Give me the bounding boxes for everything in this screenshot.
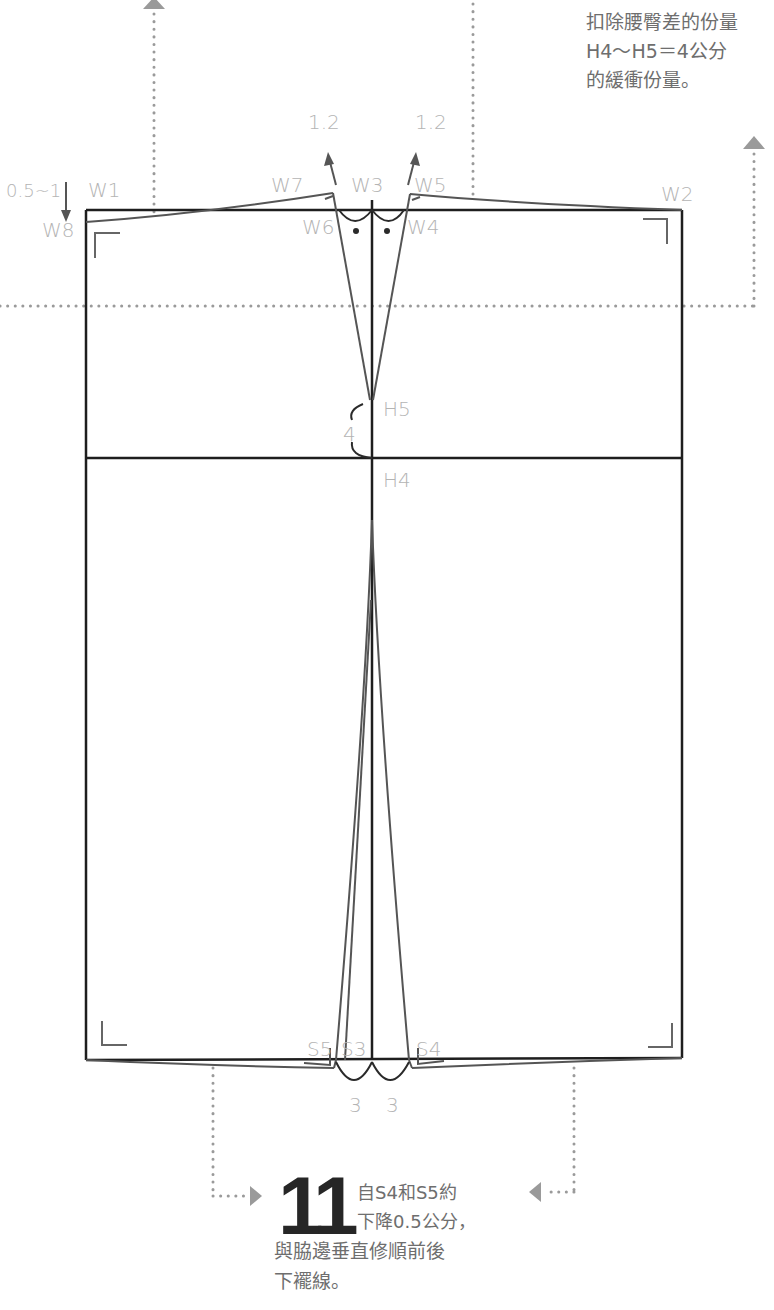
label-hem-right: 3 — [386, 1093, 399, 1117]
label-w6: W6 — [302, 215, 335, 239]
label-w7: W7 — [271, 173, 304, 197]
label-dart-left: 1.2 — [308, 110, 340, 134]
step-text-top: 自S4和S5約下降0.5公分， — [357, 1178, 476, 1236]
label-w5: W5 — [414, 173, 447, 197]
label-s3: S3 — [341, 1037, 366, 1061]
label-h5: H5 — [383, 397, 411, 421]
top-note-line: 的緩衝份量。 — [586, 66, 738, 95]
arrow-left-icon — [529, 1182, 541, 1202]
label-w3: W3 — [351, 173, 384, 197]
step-text-bottom: 與脇邊垂直修順前後下襬線。 — [274, 1236, 445, 1296]
dart-dot-icon — [353, 228, 359, 234]
skirt-pattern-diagram: W1 W2 W3 W4 W5 W6 W7 W8 H5 H4 4 1.2 1.2 … — [0, 0, 774, 1310]
label-hip-gap: 4 — [343, 422, 356, 446]
label-drop-left: 0.5~1 — [6, 180, 61, 201]
dart-dot-icon — [384, 228, 390, 234]
base-rectangle — [86, 200, 682, 1060]
arrow-up-icon — [743, 136, 765, 149]
label-w2: W2 — [661, 182, 694, 206]
label-w1: W1 — [88, 178, 121, 202]
step-line: 下襬線。 — [274, 1266, 445, 1296]
top-note-line: H4～H5＝4公分 — [586, 37, 738, 66]
top-note-line: 扣除腰臀差的份量 — [586, 8, 738, 37]
pattern-lines — [86, 193, 682, 1068]
label-s4: S4 — [416, 1037, 441, 1061]
step-number: 11 — [278, 1165, 353, 1247]
label-s5: S5 — [307, 1037, 332, 1061]
label-hem-left: 3 — [349, 1093, 362, 1117]
step-line: 自S4和S5約 — [357, 1178, 476, 1207]
top-note: 扣除腰臀差的份量H4～H5＝4公分的緩衝份量。 — [586, 8, 738, 95]
label-w8: W8 — [42, 218, 75, 242]
step-line: 與脇邊垂直修順前後 — [274, 1236, 445, 1266]
arrow-right-icon — [250, 1186, 262, 1206]
label-dart-right: 1.2 — [415, 110, 447, 134]
arrow-up-icon — [143, 0, 165, 9]
step-line: 下降0.5公分， — [357, 1207, 476, 1236]
label-h4: H4 — [383, 468, 411, 492]
label-w4: W4 — [407, 215, 440, 239]
